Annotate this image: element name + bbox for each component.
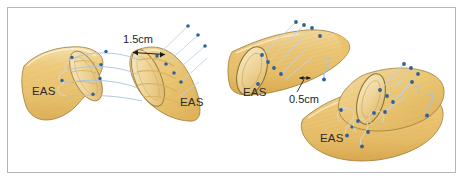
upper-curved-suture-bead — [322, 78, 326, 82]
dimension-label-0-5cm: 0.5cm — [289, 93, 319, 105]
figure-container: 1.5cm EAS EAS — [0, 0, 463, 180]
eas-label-right: EAS — [180, 96, 204, 108]
eas-label-lower-tube: EAS — [320, 132, 344, 144]
eas-label-left: EAS — [32, 85, 56, 97]
dimension-label-1-5cm: 1.5cm — [123, 33, 153, 45]
lower-curved-suture-bead — [425, 114, 429, 118]
eas-label-upper-tube: EAS — [243, 86, 267, 98]
eas-repair-illustration: 1.5cm EAS EAS — [0, 0, 463, 180]
